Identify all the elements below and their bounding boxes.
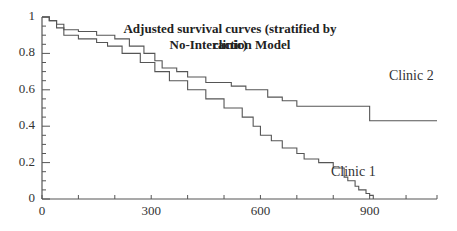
y-tick-label: 0.2 xyxy=(5,154,35,170)
x-tick-label: 300 xyxy=(131,203,171,219)
x-tick-label: 900 xyxy=(350,203,390,219)
clinic-1-label: Clinic 1 xyxy=(331,164,376,180)
y-tick-label: 1 xyxy=(5,8,35,24)
x-tick-label: 600 xyxy=(240,203,280,219)
y-tick-label: 0.8 xyxy=(5,44,35,60)
y-tick-label: 0.6 xyxy=(5,81,35,97)
clinic-2-label: Clinic 2 xyxy=(389,68,434,84)
y-tick-label: 0.4 xyxy=(5,117,35,133)
chart-subtitle: No-Interaction Model xyxy=(110,37,350,53)
survival-chart: Adjusted survival curves (stratified by … xyxy=(0,0,457,231)
x-tick-label: 0 xyxy=(22,203,62,219)
